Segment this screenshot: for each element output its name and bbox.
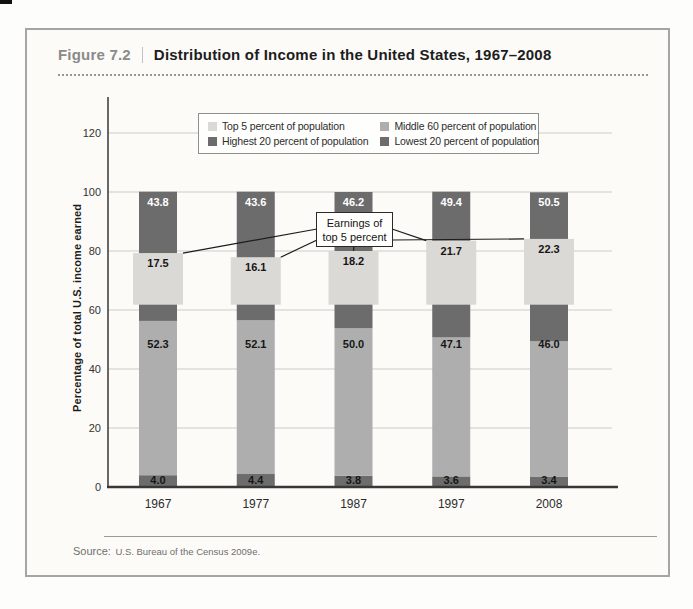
- bar-1987-middle60: [335, 328, 373, 476]
- legend-item-top5: Top 5 percent of population: [208, 120, 368, 132]
- legend-item-lowest20: Lowest 20 percent of population: [380, 135, 538, 147]
- label-2008-middle60: 46.0: [538, 338, 559, 350]
- label-1987-middle60: 50.0: [343, 338, 364, 350]
- stacked-bar-chart: 02040608010012043.817.552.34.0196743.616…: [0, 0, 693, 609]
- label-1977-middle60: 52.1: [245, 338, 266, 350]
- legend-item-middle60: Middle 60 percent of population: [380, 120, 538, 132]
- label-1977-top5: 16.1: [245, 261, 266, 273]
- x-tick-label-1987: 1987: [340, 497, 367, 511]
- label-1987-highest20: 46.2: [343, 196, 364, 208]
- legend-swatch-middle60: [380, 122, 389, 131]
- label-1977-highest20: 43.6: [245, 196, 266, 208]
- label-1997-lowest20: 3.6: [444, 474, 459, 486]
- legend-label-middle60: Middle 60 percent of population: [394, 120, 536, 132]
- source-divider-line: [104, 536, 657, 537]
- label-1987-lowest20: 3.8: [346, 474, 361, 486]
- annotation-box-top5-earnings: Earnings of top 5 percent: [316, 212, 393, 247]
- annotation-connector-3: [392, 239, 524, 240]
- y-tick-label-20: 20: [89, 422, 101, 434]
- bar-2008-middle60: [530, 341, 568, 477]
- figure-page: Figure 7.2Distribution of Income in the …: [0, 0, 693, 609]
- label-1967-top5: 17.5: [147, 257, 168, 269]
- label-1967-lowest20: 4.0: [150, 474, 165, 486]
- source-text: U.S. Bureau of the Census 2009e.: [115, 546, 260, 557]
- label-1967-middle60: 52.3: [147, 338, 168, 350]
- annotation-line-1: Earnings of: [327, 216, 383, 230]
- legend-label-top5: Top 5 percent of population: [222, 120, 345, 132]
- x-tick-label-1977: 1977: [242, 497, 269, 511]
- x-tick-label-1967: 1967: [145, 497, 172, 511]
- figure-title-separator: [142, 47, 143, 63]
- chart-legend: Top 5 percent of population Middle 60 pe…: [198, 113, 539, 154]
- y-tick-label-100: 100: [83, 186, 101, 198]
- label-1967-highest20: 43.8: [147, 196, 168, 208]
- label-1977-lowest20: 4.4: [248, 474, 264, 486]
- label-1997-top5: 21.7: [441, 245, 462, 257]
- annotation-connector-1: [281, 240, 317, 257]
- y-tick-label-40: 40: [89, 363, 101, 375]
- label-1987-top5: 18.2: [343, 255, 364, 267]
- label-2008-top5: 22.3: [538, 243, 559, 255]
- legend-label-lowest20: Lowest 20 percent of population: [394, 135, 538, 147]
- y-tick-label-80: 80: [89, 245, 101, 257]
- y-tick-label-60: 60: [89, 304, 101, 316]
- legend-label-highest20: Highest 20 percent of population: [222, 135, 368, 147]
- legend-item-highest20: Highest 20 percent of population: [208, 135, 368, 147]
- legend-swatch-lowest20: [380, 137, 389, 146]
- x-tick-label-2008: 2008: [536, 497, 563, 511]
- y-axis-title: Percentage of total U.S. income earned: [71, 204, 83, 412]
- figure-title: Distribution of Income in the United Sta…: [154, 46, 552, 63]
- legend-swatch-top5: [208, 122, 217, 131]
- source-note: Source: U.S. Bureau of the Census 2009e.: [73, 541, 260, 559]
- annotation-connector-2: [392, 229, 426, 241]
- x-tick-label-1997: 1997: [438, 497, 465, 511]
- bar-1997-middle60: [432, 337, 470, 476]
- title-dotted-divider: [58, 74, 648, 76]
- figure-number-label: Figure 7.2: [58, 46, 131, 63]
- y-tick-label-0: 0: [95, 481, 101, 493]
- label-2008-lowest20: 3.4: [541, 474, 557, 486]
- y-tick-label-120: 120: [83, 127, 101, 139]
- label-2008-highest20: 50.5: [538, 196, 559, 208]
- label-1997-middle60: 47.1: [441, 338, 462, 350]
- legend-swatch-highest20: [208, 137, 217, 146]
- figure-header: Figure 7.2Distribution of Income in the …: [58, 46, 551, 63]
- label-1997-highest20: 49.4: [441, 196, 463, 208]
- annotation-line-2: top 5 percent: [322, 230, 386, 244]
- source-label: Source:: [73, 545, 111, 557]
